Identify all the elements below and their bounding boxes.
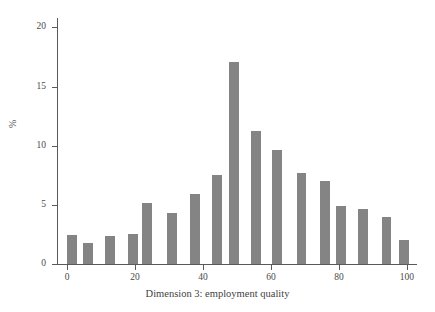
bar (128, 234, 138, 264)
bar (382, 217, 392, 264)
y-tick-label: 0 (41, 259, 46, 269)
bar (105, 236, 115, 264)
plot-area (57, 18, 417, 264)
bar (399, 240, 409, 264)
y-tick-label: 5 (41, 200, 46, 210)
x-tick-label: 20 (130, 272, 140, 282)
bar (297, 173, 307, 264)
x-tick-mark (271, 265, 272, 270)
x-tick-label: 100 (400, 272, 414, 282)
bar (67, 235, 77, 264)
bar (167, 213, 177, 264)
y-tick-label: 15 (37, 82, 47, 92)
bar (190, 194, 200, 264)
y-axis-title: % (8, 120, 18, 128)
bar (83, 243, 93, 264)
x-tick-mark (203, 265, 204, 270)
y-tick-label: 10 (37, 141, 47, 151)
bar (142, 203, 152, 264)
x-tick-mark (135, 265, 136, 270)
x-tick-mark (407, 265, 408, 270)
histogram-figure: % 05101520 020406080100 Dimension 3: emp… (0, 0, 435, 312)
y-tick-mark (52, 264, 57, 265)
x-tick-label: 60 (266, 272, 276, 282)
x-tick-label: 40 (198, 272, 208, 282)
x-tick-label: 80 (334, 272, 344, 282)
bar (251, 131, 261, 264)
bar (358, 209, 368, 264)
x-tick-mark (67, 265, 68, 270)
x-axis-line (57, 264, 417, 265)
y-tick-label: 20 (37, 22, 47, 32)
bar (320, 181, 330, 264)
x-tick-mark (339, 265, 340, 270)
bar (229, 62, 239, 264)
x-axis-title: Dimension 3: employment quality (0, 288, 435, 300)
x-tick-label: 0 (65, 272, 70, 282)
bar (212, 175, 222, 264)
bar (336, 206, 346, 264)
bar (272, 150, 282, 264)
